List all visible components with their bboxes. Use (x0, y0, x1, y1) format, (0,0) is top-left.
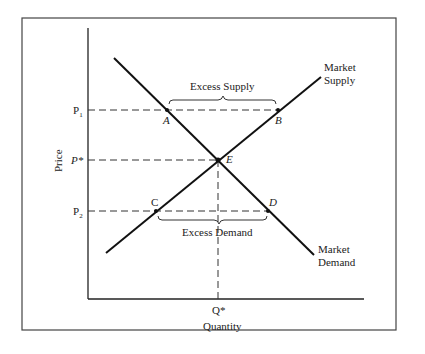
y-axis-label: Price (52, 149, 64, 172)
qstar-label: Q* (212, 304, 225, 316)
point-d-label: D (268, 196, 277, 208)
point-d-marker (266, 209, 270, 213)
excess-demand-brace (158, 216, 267, 224)
point-a-marker (165, 108, 169, 112)
point-c-label: C (151, 196, 158, 208)
excess-supply-brace (169, 96, 276, 104)
point-b-label: B (275, 114, 282, 126)
supply-curve-label-line2: Supply (324, 74, 356, 86)
point-a-label: A (162, 114, 170, 126)
point-e-label: E (225, 153, 233, 165)
demand-curve-label-line1: Market (318, 243, 350, 255)
p1-label: P1 (73, 104, 83, 119)
point-c-marker (154, 209, 158, 213)
pstar-label: P* (70, 154, 84, 166)
supply-demand-diagram: P1 P* P2 Q* Quantity Price A B E C D Exc… (0, 0, 425, 354)
excess-demand-label: Excess Demand (182, 226, 253, 238)
point-b-marker (276, 108, 280, 112)
demand-curve-label-line2: Demand (318, 256, 356, 268)
x-axis-label: Quantity (203, 320, 242, 332)
point-e-marker (216, 158, 221, 163)
supply-curve-label-line1: Market (324, 61, 356, 73)
excess-supply-label: Excess Supply (190, 80, 255, 92)
p2-label: P2 (73, 205, 83, 220)
